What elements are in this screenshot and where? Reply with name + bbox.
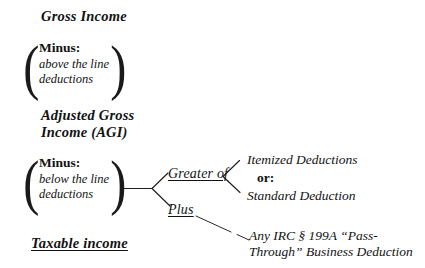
open-paren-above-line: ( (23, 36, 39, 98)
node-minus-above-line-detail-1: above the line (39, 57, 109, 72)
plus-arrow-segment-2 (237, 235, 249, 241)
node-taxable-income: Taxable income (31, 235, 128, 252)
node-agi-line-2: Income (AGI) (41, 124, 128, 141)
node-minus-above-line-detail-2: deductions (39, 72, 93, 87)
node-minus-above-line-label: Minus: (39, 40, 80, 56)
node-agi-line-1: Adjusted Gross (41, 107, 134, 124)
close-paren-above-line: ) (110, 36, 126, 98)
node-minus-below-line-detail-2: deductions (39, 187, 93, 202)
node-greater-of: Greater of (168, 166, 228, 183)
node-pass-through-line-2: Through” Business Deduction (249, 244, 413, 260)
tax-flow-diagram: Gross Income ( ) Minus: above the line d… (0, 0, 425, 268)
node-standard-deduction: Standard Deduction (247, 188, 356, 204)
node-gross-income: Gross Income (41, 8, 127, 25)
node-minus-below-line-detail-1: below the line (39, 172, 109, 187)
fork-upper-line (152, 173, 168, 189)
node-pass-through-line-1: Any IRC § 199A “Pass- (249, 228, 378, 244)
open-paren-below-line: ( (23, 151, 39, 213)
node-plus: Plus (168, 202, 194, 219)
node-or-connector: or: (257, 170, 274, 186)
node-minus-below-line-label: Minus: (39, 155, 80, 171)
node-itemized-deductions: Itemized Deductions (247, 152, 358, 168)
plus-arrow-segment-1 (196, 216, 231, 232)
close-paren-below-line: ) (110, 151, 126, 213)
